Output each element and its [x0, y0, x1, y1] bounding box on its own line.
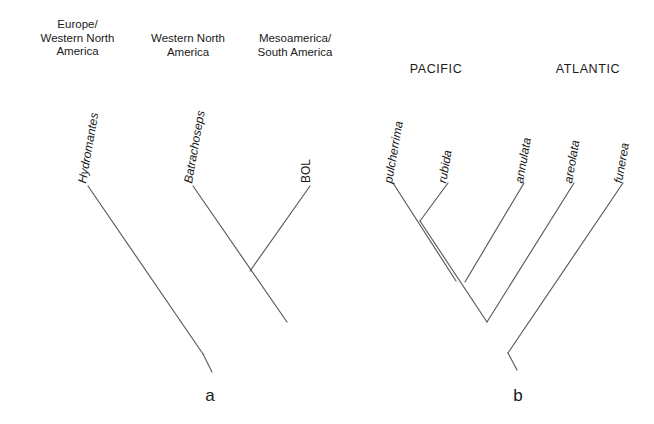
region-header-mesoamerica-south-america: Mesoamerica/ South America — [239, 32, 351, 59]
panel-letter-b: b — [503, 386, 533, 406]
branch-pulcherrima — [393, 183, 456, 281]
ocean-header-pacific: PACIFIC — [400, 62, 472, 76]
branch-node1-to-node2 — [420, 221, 487, 322]
branch-funerea — [508, 183, 623, 353]
branch-root-stem — [203, 354, 212, 372]
panel-letter-a: a — [195, 386, 225, 406]
branch-annulata — [465, 183, 524, 282]
branch-hydromantes — [88, 186, 203, 354]
taxon-label-bol: BOL — [299, 159, 313, 183]
phylogeny-figure: Europe/ Western North America Western No… — [0, 0, 654, 424]
branch-bol — [250, 186, 310, 271]
region-header-europe-western-north-america: Europe/ Western North America — [15, 18, 140, 59]
region-header-western-north-america: Western North America — [133, 32, 243, 59]
branch-rubida — [420, 183, 448, 221]
branch-root-stem — [508, 353, 517, 370]
ocean-header-atlantic: ATLANTIC — [548, 62, 628, 76]
branch-batrachoseps — [193, 186, 287, 322]
branch-areolata — [487, 183, 574, 322]
